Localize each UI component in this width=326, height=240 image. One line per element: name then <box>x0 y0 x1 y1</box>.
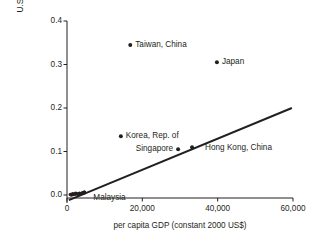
y-axis-tick-label: 0.3 <box>34 60 62 68</box>
y-axis-tick-label: 0.1 <box>34 147 62 155</box>
y-axis-tick-label: 0.2 <box>34 104 62 112</box>
data-point-label: Korea, Rep. of <box>126 132 179 140</box>
data-point-label: Singapore <box>136 145 173 153</box>
data-point[interactable] <box>128 43 132 47</box>
data-point[interactable] <box>176 147 180 151</box>
x-axis-tick-label: 60,000 <box>280 205 305 213</box>
y-axis-title-line1: U.S. patents per 1,000 patents <box>16 0 27 13</box>
trend-line <box>69 108 292 200</box>
x-axis-tick-label: 40,000 <box>205 205 230 213</box>
data-point-label: Hong Kong, China <box>205 144 272 152</box>
x-axis-title: per capita GDP (constant 2000 US$) <box>67 222 293 230</box>
y-axis-tick-label: 0.4 <box>34 17 62 25</box>
data-point-label: Taiwan, China <box>135 41 186 49</box>
data-point-label: Malaysia <box>93 194 125 202</box>
data-point[interactable] <box>215 60 219 64</box>
data-point[interactable] <box>119 134 123 138</box>
chart-figure: U.S. patents per 1,000 patents issued by… <box>0 0 326 240</box>
x-axis-tick-label: 0 <box>65 205 70 213</box>
x-axis-tick-label: 20,000 <box>130 205 155 213</box>
data-point-cluster <box>74 191 78 195</box>
data-point-label: Japan <box>222 58 244 66</box>
data-point-cluster <box>71 192 75 196</box>
scatter-plot-svg <box>0 0 326 240</box>
y-axis-tick-label: 0.0 <box>34 191 62 199</box>
data-point[interactable] <box>82 190 86 194</box>
data-point[interactable] <box>190 145 194 149</box>
plot-area <box>0 0 326 240</box>
